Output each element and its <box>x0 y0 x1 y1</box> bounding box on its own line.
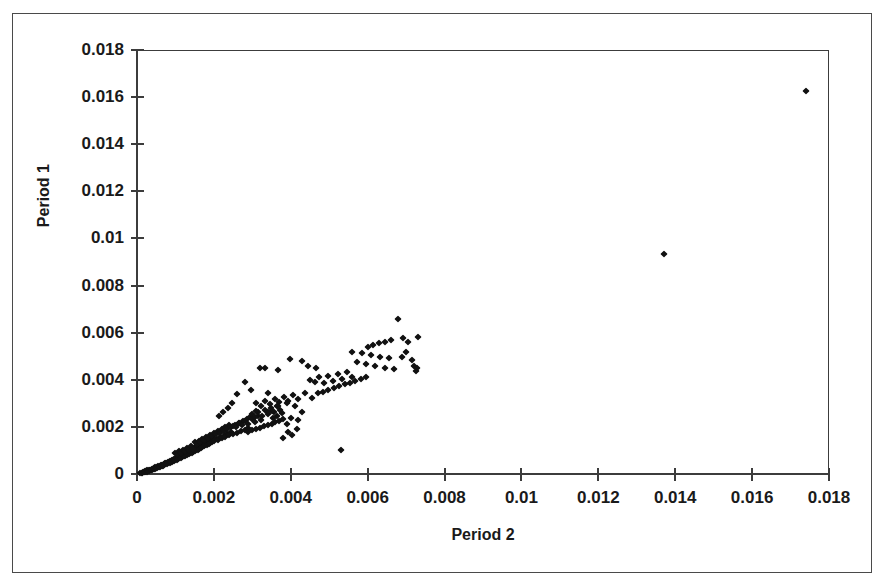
x-tick <box>213 468 215 481</box>
y-tick-label: 0.012 <box>81 181 124 201</box>
y-axis-title: Period 1 <box>35 164 65 227</box>
x-tick <box>444 468 446 481</box>
y-tick-label: 0.018 <box>81 40 124 60</box>
x-tick-label: 0.008 <box>423 488 466 508</box>
y-tick <box>131 96 144 98</box>
x-axis-title: Period 2 <box>137 526 829 544</box>
y-tick <box>131 49 144 51</box>
y-tick-label: 0.008 <box>81 276 124 296</box>
x-tick <box>828 468 830 481</box>
y-tick-label: 0 <box>115 464 124 484</box>
y-tick <box>131 285 144 287</box>
x-axis-line <box>137 473 829 475</box>
y-tick <box>131 143 144 145</box>
x-tick-label: 0.006 <box>346 488 389 508</box>
x-tick-label: 0.018 <box>808 488 851 508</box>
x-tick-label: 0.014 <box>654 488 697 508</box>
plot-area: 00.0020.0040.0060.0080.010.0120.0140.016… <box>137 50 829 474</box>
x-tick-label: 0.002 <box>193 488 236 508</box>
plot-border <box>137 50 829 474</box>
x-tick <box>751 468 753 481</box>
x-tick-label: 0.004 <box>269 488 312 508</box>
chart-title <box>13 0 873 14</box>
chart-figure-frame: 00.0020.0040.0060.0080.010.0120.0140.016… <box>12 13 872 573</box>
y-tick <box>131 332 144 334</box>
y-tick <box>131 190 144 192</box>
y-tick-label: 0.004 <box>81 370 124 390</box>
y-tick-label: 0.016 <box>81 87 124 107</box>
y-axis-line <box>136 50 138 474</box>
y-tick-label: 0.002 <box>81 417 124 437</box>
x-tick-label: 0.01 <box>505 488 538 508</box>
y-tick <box>131 237 144 239</box>
x-tick <box>674 468 676 481</box>
x-tick <box>290 468 292 481</box>
x-tick-label: 0.012 <box>577 488 620 508</box>
y-tick <box>131 426 144 428</box>
y-tick-label: 0.006 <box>81 323 124 343</box>
x-tick <box>367 468 369 481</box>
x-tick-label: 0.016 <box>731 488 774 508</box>
x-tick <box>520 468 522 481</box>
x-tick-label: 0 <box>132 488 141 508</box>
x-tick <box>597 468 599 481</box>
y-tick <box>131 379 144 381</box>
y-tick-label: 0.014 <box>81 134 124 154</box>
y-tick-label: 0.01 <box>91 228 124 248</box>
